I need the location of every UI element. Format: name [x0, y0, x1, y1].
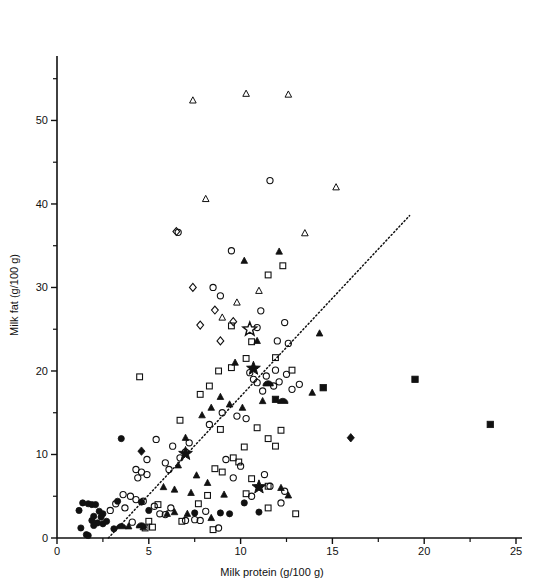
- marker-open-square: [177, 417, 183, 423]
- marker-open-square: [243, 356, 249, 362]
- marker-open-triangle: [234, 299, 241, 305]
- marker-filled-square: [412, 376, 418, 382]
- marker-open-square: [206, 383, 212, 389]
- x-tick-label: 25: [510, 545, 522, 557]
- marker-open-circle: [151, 503, 157, 509]
- marker-open-square: [293, 511, 299, 517]
- marker-filled-circle: [138, 499, 144, 505]
- marker-open-circle: [260, 388, 266, 394]
- marker-filled-circle: [241, 500, 247, 506]
- marker-open-triangle: [285, 91, 292, 97]
- marker-open-circle: [206, 421, 212, 427]
- marker-open-square: [216, 368, 222, 374]
- marker-filled-triangle: [184, 510, 191, 516]
- marker-filled-triangle: [171, 509, 178, 515]
- series-open-triangle: [190, 90, 340, 320]
- marker-filled-circle: [78, 525, 84, 531]
- marker-filled-square: [487, 421, 493, 427]
- marker-filled-circle: [91, 522, 97, 528]
- marker-filled-triangle: [188, 489, 195, 495]
- marker-open-square: [150, 524, 156, 530]
- marker-half-filled-circle: [278, 398, 288, 403]
- marker-open-circle: [243, 415, 249, 421]
- marker-open-circle: [274, 338, 280, 344]
- marker-open-triangle: [190, 97, 197, 103]
- marker-open-square: [219, 469, 225, 475]
- marker-filled-star: [179, 446, 193, 459]
- marker-filled-triangle: [276, 248, 283, 254]
- data-markers: [76, 90, 494, 538]
- x-tick-label: 20: [418, 545, 430, 557]
- marker-open-circle: [217, 293, 223, 299]
- marker-filled-circle: [103, 518, 109, 524]
- marker-open-triangle: [333, 184, 340, 190]
- marker-open-circle: [234, 413, 240, 419]
- marker-open-triangle: [219, 314, 226, 320]
- marker-filled-square: [320, 384, 326, 390]
- marker-filled-circle: [146, 507, 152, 513]
- marker-open-diamond: [211, 306, 218, 314]
- marker-filled-circle: [91, 513, 97, 519]
- marker-open-square: [265, 505, 271, 511]
- marker-open-circle: [135, 475, 141, 481]
- marker-open-diamond: [230, 318, 237, 326]
- marker-filled-circle: [118, 436, 124, 442]
- scatter-plot-figure: Milk protein (g/100 g) Milk fat (g/100 g…: [0, 0, 540, 588]
- series-filled-square: [272, 376, 493, 427]
- y-tick-label: 50: [22, 114, 48, 126]
- marker-open-square: [155, 502, 161, 508]
- marker-open-circle: [203, 508, 209, 514]
- marker-open-circle: [144, 456, 150, 462]
- y-tick-label: 0: [22, 532, 48, 544]
- marker-filled-circle: [114, 498, 120, 504]
- marker-open-square: [254, 425, 260, 431]
- y-tick-label: 30: [22, 281, 48, 293]
- marker-half-filled-circle: [136, 523, 146, 528]
- marker-filled-triangle: [208, 404, 215, 410]
- marker-filled-triangle: [226, 401, 233, 407]
- marker-open-circle: [120, 491, 126, 497]
- marker-open-circle: [276, 379, 282, 385]
- marker-open-diamond: [197, 321, 204, 329]
- marker-open-square: [195, 501, 201, 507]
- marker-open-circle: [267, 483, 273, 489]
- marker-open-triangle: [256, 287, 263, 293]
- marker-open-circle: [261, 471, 267, 477]
- marker-filled-circle: [85, 532, 91, 538]
- marker-open-circle: [254, 380, 260, 386]
- marker-filled-triangle: [160, 483, 167, 489]
- marker-open-circle: [278, 500, 284, 506]
- marker-open-triangle: [202, 195, 209, 201]
- marker-open-circle: [230, 475, 236, 481]
- marker-filled-triangle: [285, 492, 292, 498]
- marker-open-square: [265, 272, 271, 278]
- marker-open-square: [197, 391, 203, 397]
- marker-filled-circle: [192, 510, 198, 516]
- marker-open-circle: [296, 381, 302, 387]
- marker-open-circle: [168, 505, 174, 511]
- marker-filled-triangle: [239, 404, 246, 410]
- marker-open-star: [243, 322, 257, 335]
- marker-filled-circle: [76, 507, 82, 513]
- marker-filled-circle: [217, 510, 223, 516]
- x-tick-label: 15: [326, 545, 338, 557]
- marker-open-square: [212, 466, 218, 472]
- marker-open-circle: [144, 471, 150, 477]
- marker-open-square: [265, 436, 271, 442]
- series-open-star: [243, 322, 257, 335]
- marker-open-square: [241, 444, 247, 450]
- marker-open-square: [146, 518, 152, 524]
- marker-open-circle: [219, 410, 225, 416]
- axis-lines: [57, 56, 522, 538]
- marker-open-circle: [107, 507, 113, 513]
- marker-open-circle: [263, 373, 269, 379]
- marker-open-square: [137, 374, 143, 380]
- marker-open-circle: [228, 248, 234, 254]
- series-open-diamond: [173, 228, 237, 345]
- marker-open-square: [278, 427, 284, 433]
- marker-filled-circle: [98, 514, 104, 520]
- plot-canvas: [0, 0, 540, 588]
- marker-filled-triangle: [217, 393, 224, 399]
- x-tick-label: 5: [146, 545, 152, 557]
- marker-filled-triangle: [204, 479, 211, 485]
